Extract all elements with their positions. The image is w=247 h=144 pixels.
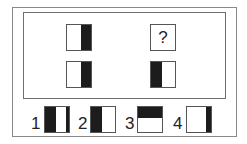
option-3[interactable] xyxy=(137,106,163,133)
black-fill-top xyxy=(138,107,162,118)
option-2[interactable] xyxy=(90,106,116,133)
option-4[interactable] xyxy=(186,106,212,133)
option-4-label: 4 xyxy=(173,115,182,132)
option-1[interactable] xyxy=(44,106,70,133)
grid-cell-top-right-unknown: ? xyxy=(150,24,176,51)
option-2-label: 2 xyxy=(78,115,87,132)
black-fill-right xyxy=(81,25,92,50)
black-strip-right xyxy=(66,107,70,132)
black-fill-right xyxy=(81,62,92,87)
grid-cell-top-left xyxy=(66,24,92,51)
grid-cell-bottom-left xyxy=(66,61,92,88)
black-fill-left xyxy=(91,107,102,132)
grid-cell-bottom-right xyxy=(150,61,176,88)
black-fill-left xyxy=(151,62,162,87)
black-strip-right xyxy=(206,107,212,132)
black-fill-left xyxy=(45,107,56,132)
question-mark: ? xyxy=(151,25,175,50)
option-3-label: 3 xyxy=(125,115,134,132)
option-1-label: 1 xyxy=(31,115,40,132)
question-grid-frame xyxy=(23,12,226,99)
